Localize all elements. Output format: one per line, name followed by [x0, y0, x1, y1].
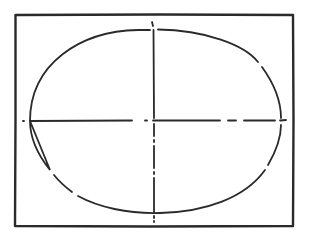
ellipse-sketch — [0, 0, 309, 242]
horizontal-center-line — [23, 120, 286, 121]
